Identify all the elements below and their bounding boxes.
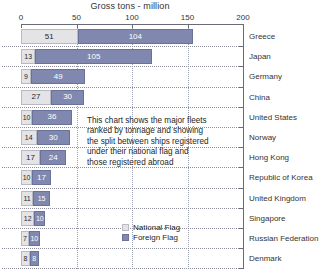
row-separator [2,268,243,269]
category-label-germany: Germany [249,72,282,81]
bar-segment-national-flag: 10 [21,170,32,185]
bar-row: 2730 [21,88,243,108]
category-label-denmark: Denmark [249,254,281,263]
bar-segment-national-flag: 7 [21,231,29,246]
bar-segment-foreign-flag: 24 [40,150,67,165]
bar-segment-national-flag: 17 [21,150,40,165]
bar-value-label: 104 [129,33,142,41]
legend-swatch-icon [122,234,129,241]
bar-segment-national-flag: 10 [21,110,32,125]
bar-row: 51104 [21,27,243,47]
x-axis-tick-label: 200 [236,13,249,22]
bar-value-label: 9 [24,73,28,80]
category-label-russian-federation: Russian Federation [249,234,318,243]
bar-value-label: 10 [23,174,31,181]
category-label-singapore: Singapore [249,214,285,223]
x-axis-tick-label: 100 [125,13,138,22]
category-label-hong-kong: Hong Kong [249,153,289,162]
x-axis-tick-label: 0 [19,13,23,22]
category-label-united-kingdom: United Kingdom [249,194,306,203]
bar-segment-foreign-flag: 105 [35,49,152,64]
bar-row: 13105 [21,47,243,67]
annotation-line: ranked by tonnage and showing [87,126,237,136]
chart-title: Gross tons - million [0,1,260,11]
bar-value-label: 7 [23,235,27,242]
bar-value-label: 17 [37,174,46,182]
category-label-republic-of-korea: Republic of Korea [249,173,313,182]
category-label-greece: Greece [249,32,275,41]
bar-segment-foreign-flag: 49 [31,69,85,84]
bar-value-label: 17 [26,154,35,162]
bar-segment-foreign-flag: 10 [34,211,45,226]
bar-segment-national-flag: 8 [21,251,30,266]
bar-value-label: 11 [23,195,30,202]
category-label-japan: Japan [249,52,271,61]
bar-segment-foreign-flag: 15 [33,191,50,206]
bar-segment-foreign-flag: 8 [30,251,39,266]
legend-label: Foreign Flag [133,233,178,242]
bar-value-label: 24 [49,154,58,162]
bar-segment-national-flag: 51 [21,29,78,44]
bar-segment-national-flag: 12 [21,211,34,226]
bar-value-label: 36 [48,113,57,121]
bar-segment-national-flag: 14 [21,130,37,145]
stacked-bar-chart: Gross tons - million 050100150200 51104G… [0,0,331,277]
category-label-china: China [249,93,270,102]
category-label-norway: Norway [249,133,276,142]
bar-value-label: 15 [38,195,46,202]
bar-value-label: 14 [25,134,33,141]
annotation-line: those registered abroad [87,158,237,168]
x-axis-tick-label: 150 [181,13,194,22]
bar-value-label: 30 [49,134,58,142]
x-axis-tick [243,24,244,28]
bar-segment-foreign-flag: 17 [32,170,51,185]
bar-value-label: 12 [24,215,32,222]
bar-row: 949 [21,67,243,87]
legend-item-national-flag: National Flag [122,222,180,232]
bar-segment-national-flag: 11 [21,191,33,206]
x-axis-tick-label: 50 [72,13,81,22]
bar-segment-foreign-flag: 36 [32,110,72,125]
bar-value-label: 13 [24,53,32,60]
chart-legend: National Flag Foreign Flag [122,222,180,242]
bar-value-label: 30 [63,93,72,101]
legend-swatch-icon [122,224,129,231]
category-axis-tick [239,268,244,269]
bar-segment-foreign-flag: 30 [51,90,84,105]
chart-annotation: This chart shows the major fleets ranked… [87,116,237,168]
bar-value-label: 10 [23,114,31,121]
annotation-line: under their national flag and [87,147,237,157]
legend-label: National Flag [133,223,180,232]
bar-segment-foreign-flag: 10 [29,231,40,246]
category-label-united-states: United States [249,113,297,122]
bar-segment-foreign-flag: 30 [37,130,70,145]
bar-value-label: 10 [30,235,38,242]
annotation-line: This chart shows the major fleets [87,116,237,126]
bar-segment-foreign-flag: 104 [78,29,193,44]
bar-value-label: 105 [87,53,100,61]
bar-value-label: 27 [32,93,41,101]
bar-value-label: 8 [32,255,36,262]
legend-item-foreign-flag: Foreign Flag [122,232,180,242]
annotation-line: the split between ships registered [87,137,237,147]
bar-segment-national-flag: 9 [21,69,31,84]
bar-value-label: 49 [54,73,63,81]
bar-row: 1115 [21,189,243,209]
bar-value-label: 51 [45,33,54,41]
bar-value-label: 8 [23,255,27,262]
bar-segment-national-flag: 13 [21,49,35,64]
bar-row: 1017 [21,168,243,188]
bar-row: 88 [21,249,243,269]
bar-segment-national-flag: 27 [21,90,51,105]
bar-value-label: 10 [36,215,44,222]
